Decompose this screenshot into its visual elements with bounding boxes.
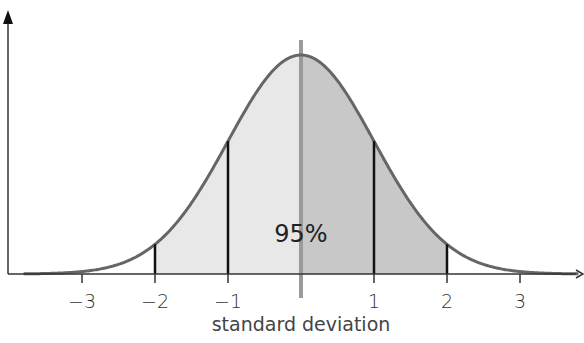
x-ticks: −3−2−1123 [68,274,526,312]
tick-label: −1 [214,290,242,312]
tick-label: −3 [68,290,96,312]
normal-distribution-chart: −3−2−1123 95% standard deviation [0,0,584,343]
tick-label: −2 [141,290,169,312]
tick-label: 1 [368,290,380,312]
tick-label: 2 [441,290,453,312]
percent-annotation: 95% [274,220,327,248]
x-axis-title: standard deviation [212,313,391,335]
tick-label: 3 [514,290,526,312]
y-axis-arrow-icon [3,10,13,24]
